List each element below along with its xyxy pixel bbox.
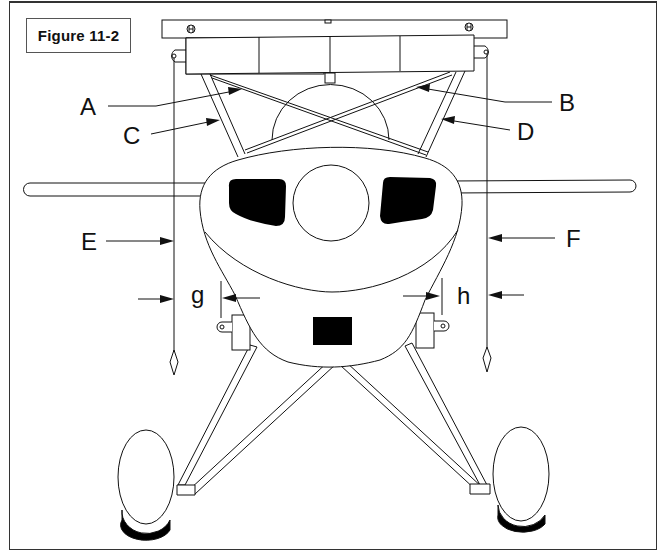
propeller-spinner [293, 165, 369, 241]
airplane-front-view-drawing [0, 0, 667, 557]
leader-a [108, 87, 242, 106]
callout-f: F [566, 227, 581, 251]
leader-c [151, 118, 220, 134]
leader-b [416, 84, 552, 102]
plumb-mount-right [474, 46, 488, 58]
wing-right [450, 180, 636, 193]
callout-e: E [81, 230, 97, 254]
wing-left [24, 183, 211, 196]
callout-d: D [517, 120, 534, 144]
plumb-line-right [483, 54, 491, 372]
gear-mount-left [217, 315, 250, 350]
callout-g: g [191, 283, 204, 307]
cabane-strut-right [418, 71, 465, 157]
callout-b: B [559, 91, 575, 115]
callout-c: C [123, 124, 140, 148]
leader-g-left [138, 295, 174, 303]
window-right [380, 177, 436, 224]
callout-h: h [457, 284, 470, 308]
callout-a: A [80, 95, 96, 119]
leader-h-right [488, 291, 524, 299]
leader-f [488, 234, 555, 242]
air-intake [313, 317, 352, 345]
wheel-left [118, 430, 174, 540]
wing-center-section [186, 35, 474, 83]
leader-d [441, 116, 510, 130]
gear-mount-right [416, 313, 449, 348]
leader-e [106, 237, 174, 245]
cabane-strut-left [201, 74, 245, 157]
plumb-line-left [170, 58, 178, 375]
wheel-right [493, 427, 549, 532]
